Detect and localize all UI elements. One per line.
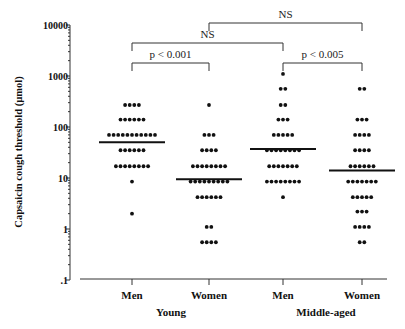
dot-plot-chart: 100001000100101.1 MenWomenMenWomenYoungM… [0, 0, 405, 329]
data-point [137, 164, 141, 168]
x-group-label: Young [156, 306, 186, 318]
data-point [362, 87, 366, 91]
data-point [283, 87, 287, 91]
data-point [286, 164, 290, 168]
data-point [153, 133, 157, 137]
data-point [207, 133, 211, 137]
data-point [200, 195, 204, 199]
data-point [283, 180, 287, 184]
data-point [365, 180, 369, 184]
data-point [137, 118, 141, 122]
data-point [346, 180, 350, 184]
data-point [114, 164, 118, 168]
data-point [353, 148, 357, 152]
significance-label: NS [200, 28, 214, 40]
data-point [128, 103, 132, 107]
y-tick-label: 10 [58, 173, 68, 184]
data-point [142, 118, 146, 122]
data-point [205, 148, 209, 152]
data-point [137, 103, 141, 107]
data-point [351, 195, 355, 199]
data-point [142, 164, 146, 168]
data-point [360, 118, 364, 122]
data-point [128, 148, 132, 152]
significance-bracket [132, 63, 209, 71]
data-point [353, 225, 357, 229]
data-point [126, 133, 130, 137]
data-point [212, 133, 216, 137]
data-point [132, 118, 136, 122]
data-point [139, 133, 143, 137]
data-point [196, 164, 200, 168]
data-point [283, 103, 287, 107]
data-point [205, 164, 209, 168]
data-point [191, 164, 195, 168]
median-lines [99, 142, 395, 179]
data-point [132, 164, 136, 168]
data-point [196, 195, 200, 199]
data-point [226, 180, 230, 184]
y-tick-label: 1000 [48, 71, 68, 82]
data-point [274, 180, 278, 184]
data-point [130, 133, 134, 137]
data-point [356, 180, 360, 184]
data-point [200, 148, 204, 152]
data-point [270, 180, 274, 184]
data-point [288, 180, 292, 184]
data-point [281, 133, 285, 137]
data-point [349, 164, 353, 168]
data-point [362, 240, 366, 244]
data-point [365, 118, 369, 122]
series-young-men [107, 103, 157, 215]
significance-bracket [209, 23, 362, 31]
data-point [209, 195, 213, 199]
data-point [146, 164, 150, 168]
data-point [214, 148, 218, 152]
data-point [358, 164, 362, 168]
data-point [360, 180, 364, 184]
data-point [362, 164, 366, 168]
data-point [367, 164, 371, 168]
y-tick-label: 100 [53, 122, 68, 133]
data-point [128, 164, 132, 168]
data-point [272, 133, 276, 137]
data-point [221, 180, 225, 184]
data-point [116, 133, 120, 137]
data-point [279, 87, 283, 91]
data-point [121, 133, 125, 137]
data-point [267, 164, 271, 168]
data-point [279, 103, 283, 107]
data-point [119, 148, 123, 152]
x-group-label: Middle-aged [296, 306, 355, 318]
series-middle-aged-men [265, 72, 301, 199]
data-point [372, 164, 376, 168]
data-point [128, 118, 132, 122]
data-point [356, 195, 360, 199]
data-point [219, 164, 223, 168]
data-point [137, 148, 141, 152]
series-young-women [189, 103, 230, 244]
data-point [130, 180, 134, 184]
data-point [119, 164, 123, 168]
data-point [358, 87, 362, 91]
data-point [144, 133, 148, 137]
data-point [123, 148, 127, 152]
data-point [353, 164, 357, 168]
data-point [214, 164, 218, 168]
data-point [107, 133, 111, 137]
x-category-label: Women [344, 289, 380, 301]
data-point [293, 180, 297, 184]
data-point [265, 180, 269, 184]
data-point [367, 148, 371, 152]
data-point [367, 133, 371, 137]
significance-label: p < 0.005 [302, 48, 344, 60]
data-point [358, 240, 362, 244]
data-point [207, 103, 211, 107]
x-axis: MenWomenMenWomenYoungMiddle-aged [80, 279, 387, 318]
data-point [286, 133, 290, 137]
data-point [207, 180, 211, 184]
y-tick-label: 10000 [43, 20, 68, 31]
data-point [279, 180, 283, 184]
data-point [277, 164, 281, 168]
data-point [209, 240, 213, 244]
